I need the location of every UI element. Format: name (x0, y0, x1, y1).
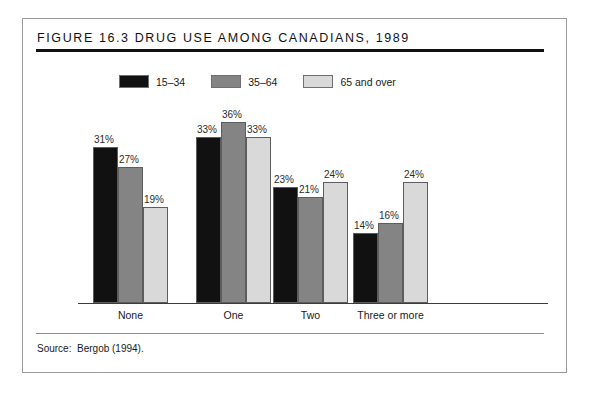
bar-rect[interactable] (403, 182, 428, 303)
bar-rect[interactable] (323, 182, 348, 303)
bar-rect[interactable] (378, 223, 403, 303)
figure-frame: Figure 16.3 Drug Use among Canadians, 19… (22, 18, 567, 373)
bar-value-label: 14% (354, 220, 374, 231)
bar-group: 31%27%19%None (93, 103, 168, 303)
bar-value-label: 33% (197, 124, 217, 135)
bar[interactable]: 24% (403, 182, 428, 303)
source-divider (36, 333, 544, 334)
bar-rect[interactable] (93, 147, 118, 303)
bar-rect[interactable] (118, 167, 143, 303)
bar[interactable]: 19% (143, 207, 168, 303)
bar-value-label: 16% (379, 210, 399, 221)
bar-group-bars: 23%21%24% (273, 182, 348, 303)
x-axis-tick-label: One (196, 309, 271, 321)
bar-group-bars: 33%36%33% (196, 122, 271, 303)
bar[interactable]: 27% (118, 167, 143, 303)
bar-rect[interactable] (221, 122, 246, 303)
bar-group: 14%16%24%Three or more (353, 103, 428, 303)
x-axis-tick-label: None (93, 309, 168, 321)
bar[interactable]: 24% (323, 182, 348, 303)
bar-rect[interactable] (246, 137, 271, 303)
bar-rect[interactable] (273, 187, 298, 303)
bar-value-label: 21% (299, 184, 319, 195)
bar-rect[interactable] (196, 137, 221, 303)
bar-rect[interactable] (353, 233, 378, 303)
bar-value-label: 31% (94, 134, 114, 145)
bar-rect[interactable] (298, 197, 323, 303)
bar-group-bars: 14%16%24% (353, 182, 428, 303)
bar[interactable]: 23% (273, 187, 298, 303)
bar-group: 33%36%33%One (196, 103, 271, 303)
bar-rect[interactable] (143, 207, 168, 303)
bar-value-label: 23% (274, 174, 294, 185)
bar-chart-plot: 31%27%19%None33%36%33%One23%21%24%Two14%… (23, 19, 568, 374)
bar[interactable]: 14% (353, 233, 378, 303)
bar[interactable]: 16% (378, 223, 403, 303)
bar[interactable]: 31% (93, 147, 118, 303)
bar-value-label: 36% (222, 109, 242, 120)
x-axis-tick-label: Two (273, 309, 348, 321)
bar[interactable]: 33% (246, 137, 271, 303)
bar-value-label: 19% (144, 194, 164, 205)
bar-value-label: 24% (324, 169, 344, 180)
source-note: Source: Bergob (1994). (37, 343, 144, 354)
bar-value-label: 27% (119, 154, 139, 165)
bar-value-label: 24% (404, 169, 424, 180)
x-axis-tick-label: Three or more (353, 309, 428, 321)
bar[interactable]: 33% (196, 137, 221, 303)
x-axis-line (78, 303, 548, 304)
bar-group: 23%21%24%Two (273, 103, 348, 303)
bar-value-label: 33% (247, 124, 267, 135)
bar[interactable]: 21% (298, 197, 323, 303)
bar[interactable]: 36% (221, 122, 246, 303)
bar-group-bars: 31%27%19% (93, 147, 168, 303)
